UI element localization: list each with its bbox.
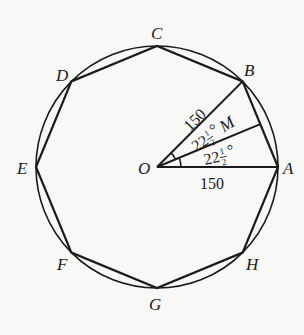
angle-MOA-degree: °: [226, 141, 236, 159]
label-F: F: [56, 255, 68, 274]
angle-MOA-numerator: 1: [219, 146, 225, 157]
angle-arc-MOA: [179, 158, 181, 167]
angle-MOA-denominator: 2: [221, 157, 227, 168]
angle-arc-BOM: [171, 153, 175, 159]
label-O: O: [138, 159, 150, 178]
label-G: G: [149, 295, 161, 314]
label-A: A: [282, 159, 294, 178]
label-B: B: [244, 61, 255, 80]
label-C: C: [151, 24, 163, 43]
length-label-OA: 150: [200, 175, 224, 192]
label-H: H: [245, 255, 260, 274]
octagon-diagram: A B C D E F G H O 150 150 22 1 2 ° M 22 …: [0, 0, 304, 335]
label-E: E: [16, 159, 28, 178]
diagram-svg: A B C D E F G H O 150 150 22 1 2 ° M 22 …: [0, 0, 304, 335]
label-D: D: [55, 66, 69, 85]
